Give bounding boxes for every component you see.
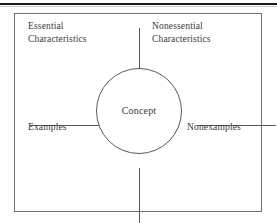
concept-circle: Concept: [96, 68, 182, 154]
page-canvas: Essential Characteristics Nonessential C…: [0, 0, 277, 223]
quadrant-label-nonexamples: Nonexamples: [187, 121, 241, 134]
quadrant-label-examples: Examples: [28, 121, 67, 134]
top-rule-divider: [0, 3, 277, 5]
concept-label: Concept: [122, 105, 157, 117]
quadrant-label-nonessential-characteristics: Nonessential Characteristics: [152, 20, 211, 45]
quadrant-label-essential-characteristics: Essential Characteristics: [28, 20, 87, 45]
top-rule-hairline: [0, 6, 277, 7]
vertical-divider-bottom: [139, 168, 140, 223]
